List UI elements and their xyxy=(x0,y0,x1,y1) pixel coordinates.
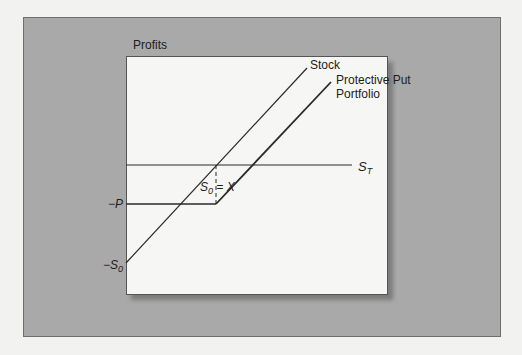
protective-put-label-line1: Protective Put xyxy=(336,73,411,87)
strike-annotation: S0 = X xyxy=(200,180,235,198)
y-axis-label: Profits xyxy=(133,38,167,52)
neg-s0-sub: 0 xyxy=(118,264,123,274)
strike-annotation-s: S xyxy=(200,180,208,194)
neg-s0-main: −S xyxy=(103,258,118,272)
stock-label: Stock xyxy=(310,58,340,72)
neg-p-tick-label: −P xyxy=(108,197,123,211)
protective-put-label-line2: Portfolio xyxy=(336,87,411,101)
neg-s0-tick-label: −S0 xyxy=(103,258,123,276)
x-axis-label-sub: T xyxy=(367,166,373,176)
x-axis-label-main: S xyxy=(358,159,367,174)
strike-annotation-rest: = X xyxy=(213,180,235,194)
payoff-chart xyxy=(0,0,522,355)
x-axis-label: ST xyxy=(358,160,372,178)
protective-put-label: Protective Put Portfolio xyxy=(336,73,411,101)
